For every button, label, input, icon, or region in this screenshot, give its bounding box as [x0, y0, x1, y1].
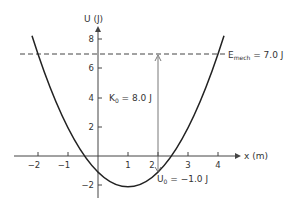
x-ticks [38, 152, 218, 156]
x-tick-label: 1 [125, 160, 130, 170]
x-axis-arrow-icon [235, 153, 241, 159]
x-tick-label: −1 [58, 160, 71, 170]
y-tick-label: 8 [89, 34, 94, 44]
x-tick-label: 4 [215, 160, 220, 170]
y-tick-label: 2 [89, 122, 94, 132]
x-tick-label: 2 [149, 160, 154, 170]
y-ticks [98, 39, 102, 185]
x-tick-label: −2 [28, 160, 41, 170]
y-axis-arrow-icon [95, 26, 101, 32]
energy-diagram: −2 −1 1 2 3 4 8 6 4 2 −2 U (J) x (m) Eme… [0, 0, 294, 205]
u0-label: U0 = −1.0 J [157, 174, 208, 185]
y-tick-label: −2 [81, 180, 94, 190]
x-axis-label: x (m) [244, 151, 268, 161]
y-tick-label: 6 [89, 63, 94, 73]
y-axis-label: U (J) [84, 14, 103, 24]
k0-label: K0 = 8.0 J [109, 93, 152, 104]
emech-label: Emech = 7.0 J [228, 50, 283, 61]
y-tick-label: 4 [89, 93, 94, 103]
x-tick-label: 3 [185, 160, 190, 170]
